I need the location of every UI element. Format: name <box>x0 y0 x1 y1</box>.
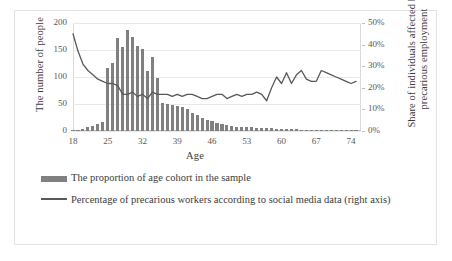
legend-swatch-line <box>41 198 67 200</box>
legend-item-line: Percentage of precarious workers accordi… <box>41 193 431 206</box>
y-axis-right-tickmark <box>362 131 365 132</box>
y-axis-right-tickmark <box>362 66 365 67</box>
y-axis-right-tickmark <box>362 45 365 46</box>
y-axis-right-tick-label: 30% <box>368 60 402 70</box>
chart-legend: The proportion of age cohort in the samp… <box>41 171 431 215</box>
y-axis-right-tickmark <box>362 109 365 110</box>
y-axis-right-tick-label: 10% <box>368 103 402 113</box>
x-axis-tick-label: 18 <box>58 136 88 146</box>
plot-area <box>73 23 361 131</box>
gridline <box>73 131 361 132</box>
legend-label-bar: The proportion of age cohort in the samp… <box>71 171 251 184</box>
x-axis-tick-label: 67 <box>301 136 331 146</box>
y-axis-right-tickmark <box>362 23 365 24</box>
x-axis-tick-label: 53 <box>232 136 262 146</box>
precarious-line-path <box>73 34 356 101</box>
line-series <box>73 23 361 131</box>
legend-swatch-bar <box>41 176 67 182</box>
x-axis-tick-label: 60 <box>267 136 297 146</box>
legend-item-bar: The proportion of age cohort in the samp… <box>41 171 431 184</box>
x-axis-tick-label: 39 <box>162 136 192 146</box>
y-axis-right-tick-label: 40% <box>368 39 402 49</box>
y-axis-right-tick-label: 0% <box>368 125 402 135</box>
y-axis-left-tick-label: 150 <box>37 44 67 54</box>
y-axis-left-tick-label: 0 <box>37 125 67 135</box>
y-axis-left-tick-label: 100 <box>37 71 67 81</box>
x-axis-tick-label: 46 <box>197 136 227 146</box>
y-axis-right-tick-label: 50% <box>368 17 402 27</box>
y-axis-left-tick-label: 200 <box>37 17 67 27</box>
x-axis-tick-label: 25 <box>93 136 123 146</box>
y-axis-right-tickmark <box>362 88 365 89</box>
y-axis-left-tick-label: 50 <box>37 98 67 108</box>
legend-label-line: Percentage of precarious workers accordi… <box>71 193 391 206</box>
x-axis-tick-label: 74 <box>336 136 366 146</box>
y-axis-right-title: Share of individuals affected by precari… <box>406 0 430 129</box>
x-axis-tick-label: 32 <box>128 136 158 146</box>
x-axis-title: Age <box>15 150 375 161</box>
y-axis-right-tick-label: 20% <box>368 82 402 92</box>
chart-figure: The number of people Share of individual… <box>14 10 437 245</box>
